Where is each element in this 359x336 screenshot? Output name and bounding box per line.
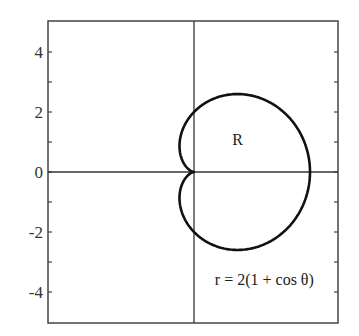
equation-label: r = 2(1 + cos θ) <box>215 271 314 289</box>
polar-chart: 420-2-4 R r = 2(1 + cos θ) <box>0 0 359 336</box>
y-tick-label: -4 <box>29 283 44 302</box>
y-tick-label: 2 <box>35 103 44 122</box>
region-label: R <box>232 131 243 148</box>
y-tick-label: -2 <box>29 223 43 242</box>
y-tick-label: 4 <box>35 43 44 62</box>
y-tick-label: 0 <box>35 163 44 182</box>
